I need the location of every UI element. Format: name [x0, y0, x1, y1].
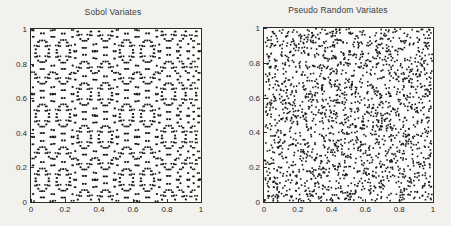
y-tick-mark [31, 202, 34, 203]
x-tick-label: 0.8 [394, 205, 405, 214]
x-tick-mark [133, 199, 134, 202]
x-tick-label: 1 [431, 205, 435, 214]
x-tick-label: 1 [199, 205, 203, 214]
scatter-points-sobol [31, 29, 201, 202]
y-tick-label: 0.6 [8, 94, 27, 103]
y-tick-label: 0.8 [241, 58, 260, 67]
x-tick-label: 0.2 [292, 205, 303, 214]
y-tick-mark [264, 63, 267, 64]
x-tick-mark [332, 199, 333, 202]
x-tick-mark [365, 199, 366, 202]
y-tick-mark [31, 133, 34, 134]
x-tick-label: 0.2 [59, 205, 70, 214]
y-tick-mark [264, 167, 267, 168]
x-tick-label: 0.8 [161, 205, 172, 214]
x-tick-mark [65, 199, 66, 202]
x-tick-mark [433, 199, 434, 202]
y-tick-label: 1 [8, 25, 27, 34]
figure-canvas: Sobol Variates 00.20.40.60.8100.20.40.60… [0, 0, 451, 226]
y-tick-label: 0.2 [241, 163, 260, 172]
y-tick-label: 0.4 [241, 128, 260, 137]
y-tick-mark [264, 132, 267, 133]
panel-sobol: Sobol Variates 00.20.40.60.8100.20.40.60… [0, 0, 226, 226]
y-tick-label: 0 [8, 198, 27, 207]
y-tick-label: 0.6 [241, 93, 260, 102]
x-tick-label: 0.4 [93, 205, 104, 214]
x-tick-label: 0 [29, 205, 33, 214]
x-tick-label: 0 [262, 205, 266, 214]
panel-title-sobol: Sobol Variates [0, 7, 226, 17]
x-tick-mark [399, 199, 400, 202]
scatter-points-pseudo-random [264, 28, 433, 202]
y-tick-mark [264, 202, 267, 203]
y-tick-mark [31, 64, 34, 65]
y-tick-label: 0.2 [8, 163, 27, 172]
y-tick-mark [31, 29, 34, 30]
x-tick-label: 0.6 [360, 205, 371, 214]
x-tick-mark [99, 199, 100, 202]
y-tick-mark [31, 98, 34, 99]
y-tick-mark [264, 28, 267, 29]
panel-pseudo-random: Pseudo Random Variates 00.20.40.60.8100.… [225, 0, 451, 226]
panel-title-pseudo-random: Pseudo Random Variates [225, 5, 451, 15]
axes-sobol [30, 28, 202, 203]
y-tick-label: 0.4 [8, 128, 27, 137]
y-tick-label: 1 [241, 24, 260, 33]
y-tick-label: 0.8 [8, 59, 27, 68]
x-tick-label: 0.6 [127, 205, 138, 214]
axes-pseudo-random [263, 27, 434, 203]
y-tick-mark [264, 98, 267, 99]
y-tick-mark [31, 167, 34, 168]
x-tick-mark [298, 199, 299, 202]
x-tick-mark [167, 199, 168, 202]
x-tick-label: 0.4 [326, 205, 337, 214]
y-tick-label: 0 [241, 198, 260, 207]
x-tick-mark [201, 199, 202, 202]
